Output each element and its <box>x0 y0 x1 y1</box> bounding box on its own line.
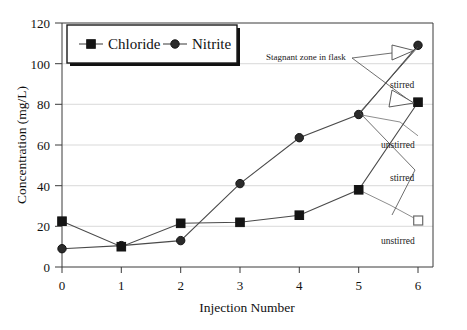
chart-svg: 0 20 40 60 80 100 120 0 1 2 3 4 5 6 Inje… <box>0 0 467 330</box>
nitrite-point-2 <box>177 236 185 244</box>
legend-label-chloride: Chloride <box>108 36 161 52</box>
x-ticklabel-2: 2 <box>177 278 184 293</box>
chloride-point-1 <box>117 242 126 251</box>
chloride-point-0 <box>58 217 67 226</box>
x-axis-title: Injection Number <box>199 300 295 315</box>
annotation-chloride-stirred: stirred <box>390 173 415 183</box>
x-axis-tick-labels: 0 1 2 3 4 5 6 <box>59 278 422 293</box>
nitrite-point-3 <box>236 179 244 187</box>
nitrite-unstirred-branch <box>359 115 418 136</box>
nitrite-point-6-stirred <box>414 41 422 49</box>
legend-label-nitrite: Nitrite <box>192 36 231 52</box>
x-ticklabel-0: 0 <box>59 278 66 293</box>
annotation-nitrite-stirred: stirred <box>390 80 415 90</box>
x-ticklabel-1: 1 <box>118 278 125 293</box>
y-axis-title: Concentration (mg/L) <box>14 86 29 204</box>
y-ticklabel-40: 40 <box>37 179 50 194</box>
chart-container: 0 20 40 60 80 100 120 0 1 2 3 4 5 6 Inje… <box>0 0 467 330</box>
y-ticklabel-100: 100 <box>31 57 51 72</box>
chloride-point-4 <box>295 211 304 220</box>
gridlines <box>62 64 433 227</box>
annotation-nitrite-unstirred: unstirred <box>381 140 415 150</box>
chloride-point-6-stirred <box>414 98 423 107</box>
nitrite-point-0 <box>58 245 66 253</box>
nitrite-point-4 <box>295 134 303 142</box>
y-ticklabel-60: 60 <box>37 138 50 153</box>
arrowhead-nitrite-stirred-icon <box>392 45 414 60</box>
legend-marker-nitrite-circle-icon <box>171 40 179 48</box>
annotation-stagnant-zone: Stagnant zone in flask <box>266 52 346 62</box>
chloride-point-3 <box>236 218 245 227</box>
x-ticklabel-6: 6 <box>415 278 422 293</box>
y-axis-ticks <box>55 23 62 267</box>
chloride-point-6-unstirred <box>414 216 423 225</box>
x-axis-ticks <box>62 267 418 273</box>
y-axis-tick-labels: 0 20 40 60 80 100 120 <box>31 16 51 275</box>
x-ticklabel-4: 4 <box>296 278 303 293</box>
legend-marker-chloride-square-icon <box>87 40 96 49</box>
annotation-chloride-unstirred: unstirred <box>381 236 415 246</box>
y-ticklabel-80: 80 <box>37 97 50 112</box>
legend[interactable]: Chloride Nitrite <box>67 25 240 66</box>
chloride-unstirred-branch <box>359 190 418 220</box>
chloride-point-5 <box>354 186 363 195</box>
y-ticklabel-20: 20 <box>37 219 50 234</box>
x-ticklabel-5: 5 <box>355 278 362 293</box>
x-ticklabel-3: 3 <box>237 278 244 293</box>
leader-stagnant-to-nitrite <box>352 53 392 58</box>
chloride-point-2 <box>176 219 185 228</box>
y-ticklabel-0: 0 <box>44 260 51 275</box>
y-ticklabel-120: 120 <box>31 16 51 31</box>
